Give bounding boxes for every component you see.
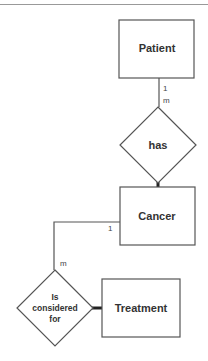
relationship-label-line-1: Is: [51, 292, 58, 302]
er-diagram: 1 m 1 m Patient has Cancer Is considered…: [0, 0, 208, 361]
relationship-has[interactable]: has: [120, 107, 196, 183]
relationship-label: has: [149, 139, 168, 151]
entity-label: Treatment: [115, 302, 168, 314]
cardinality-considered: m: [60, 259, 67, 268]
relationship-is-considered-for[interactable]: Is considered for: [17, 270, 93, 346]
cardinality-has: m: [163, 96, 170, 105]
relationship-label-line-3: for: [49, 314, 61, 324]
entity-label: Cancer: [138, 210, 176, 222]
entity-treatment[interactable]: Treatment: [102, 279, 180, 337]
cardinality-cancer: 1: [108, 224, 113, 233]
entity-cancer[interactable]: Cancer: [120, 187, 195, 245]
entity-patient[interactable]: Patient: [119, 20, 194, 78]
entity-label: Patient: [139, 42, 176, 54]
relationship-label-line-2: considered: [32, 303, 77, 313]
cardinality-patient: 1: [163, 84, 168, 93]
